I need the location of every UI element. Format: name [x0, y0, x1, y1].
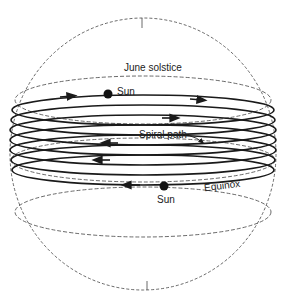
sun-top-label: Sun	[117, 86, 135, 97]
sun-top-icon	[104, 90, 113, 99]
sun-bottom-label: Sun	[157, 194, 175, 205]
spiral-path-label: Spiral path	[139, 129, 187, 140]
lower-circle	[15, 187, 271, 237]
spiral-path	[10, 95, 276, 185]
june-solstice-label: June solstice	[124, 62, 182, 73]
celestial-sphere-outline	[10, 18, 276, 290]
celestial-sphere-diagram	[0, 0, 287, 297]
june-solstice-circle	[15, 76, 271, 124]
sun-bottom-icon	[160, 182, 169, 191]
